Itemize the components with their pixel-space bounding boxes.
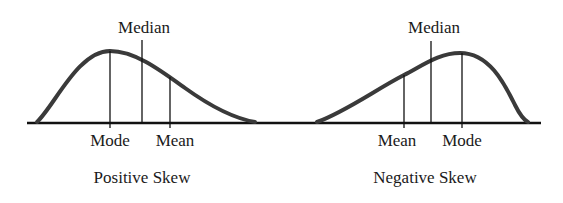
median-label: Median [408, 18, 460, 37]
positive-skew-curve [37, 51, 255, 122]
negative-skew-panel: Median Mean Mode Negative Skew [317, 18, 528, 187]
mean-label: Mean [156, 131, 195, 150]
positive-skew-panel: Median Mode Mean Positive Skew [37, 18, 255, 187]
positive-skew-caption: Positive Skew [94, 168, 192, 187]
skew-diagram: Median Mode Mean Positive Skew Median Me… [0, 0, 563, 203]
negative-skew-caption: Negative Skew [373, 168, 477, 187]
mode-label: Mode [442, 131, 482, 150]
mode-label: Mode [90, 131, 130, 150]
mean-label: Mean [378, 131, 417, 150]
negative-skew-curve [317, 53, 528, 122]
median-label: Median [118, 18, 170, 37]
